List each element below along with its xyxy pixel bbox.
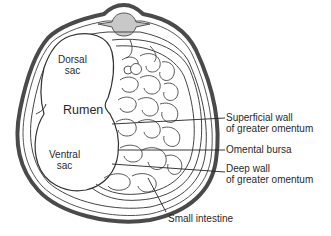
label-small-intestine: Small intestine [168,214,233,225]
label-superficial-wall: Superficial wall of greater omentum [226,113,313,134]
label-rumen: Rumen [63,104,103,117]
label-dorsal-sac-line2: sac [58,66,87,77]
label-omental-bursa: Omental bursa [226,145,292,156]
vessel-large [131,64,142,75]
label-dorsal-sac-line1: Dorsal [58,55,87,66]
leader-superficial-wall [112,118,225,124]
label-ventral-sac: Ventral sac [49,150,80,171]
label-ventral-sac-line1: Ventral [49,150,80,161]
label-superficial-wall-line1: Superficial wall [226,113,313,124]
anatomy-diagram: Dorsal sac Rumen Ventral sac Superficial… [0,0,331,236]
small-intestine-coils [104,40,182,192]
label-deep-wall: Deep wall of greater omentum [226,164,313,185]
label-dorsal-sac: Dorsal sac [58,55,87,76]
label-superficial-wall-line2: of greater omentum [226,124,313,135]
label-ventral-sac-line2: sac [49,161,80,172]
label-deep-wall-line1: Deep wall [226,164,313,175]
label-deep-wall-line2: of greater omentum [226,175,313,186]
